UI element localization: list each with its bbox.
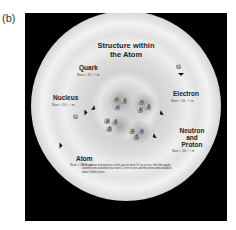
quark-particle: d	[121, 98, 127, 104]
nucleus-size: Size ≈ 10⁻¹⁴ m	[52, 103, 74, 107]
electron-particle: e⁻	[73, 114, 78, 119]
quark-particle: u	[138, 128, 144, 134]
proton-text: Proton	[172, 141, 212, 148]
pointer-arrow-icon	[85, 110, 88, 116]
and-text: and	[172, 134, 212, 141]
quark-particle: u	[104, 118, 110, 124]
quark-label: Quark	[79, 64, 98, 71]
quark-particle: u	[138, 99, 144, 105]
quark-size: Size < 10⁻¹⁹ m	[77, 73, 100, 77]
atom-structure-diagram: Structure within the Atom Quark Size < 1…	[25, 13, 227, 221]
electron-label: Electron	[173, 90, 199, 97]
atom-label: Atom	[76, 155, 93, 162]
neutron-proton-label: Neutron and Proton	[172, 127, 212, 148]
quark-particle: u	[113, 96, 119, 102]
nucleon-halo	[109, 90, 131, 112]
title-line-2: the Atom	[25, 51, 227, 60]
pointer-arrow-icon	[178, 73, 184, 76]
panel-label: (b)	[2, 12, 15, 24]
electron-particle: e⁻	[176, 64, 181, 69]
quark-particle: u	[114, 104, 120, 110]
caption-text: If the protons and neutrons in this pict…	[82, 164, 172, 174]
quark-particle: d	[112, 119, 118, 125]
quark-particle: d	[145, 104, 151, 110]
quark-particle: d	[133, 134, 139, 140]
quark-particle: d	[137, 107, 143, 113]
diagram-title: Structure within the Atom	[25, 42, 227, 59]
nucleus-label: Nucleus	[53, 94, 78, 101]
neutron-proton-size: Size ≈ 10⁻¹⁵ m	[172, 149, 194, 153]
neutron-text: Neutron	[172, 127, 212, 134]
quark-particle: d	[106, 126, 112, 132]
electron-size: Size < 10⁻¹⁸ m	[171, 99, 194, 103]
pointer-arrow-icon	[60, 143, 63, 149]
